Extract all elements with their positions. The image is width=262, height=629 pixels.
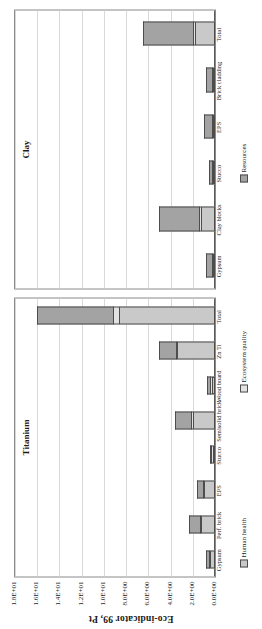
bar-column — [175, 411, 215, 429]
panel-titanium-title: Titanium — [21, 298, 31, 576]
gridline — [59, 10, 60, 288]
bar-column — [206, 67, 215, 91]
bar-column — [37, 306, 215, 324]
y-axis-tick — [15, 576, 16, 577]
y-axis-tick — [193, 576, 194, 577]
bar-segment — [193, 411, 215, 429]
y-axis-tick — [82, 576, 83, 577]
gridline — [126, 298, 127, 576]
bar-column — [159, 341, 215, 359]
bar-column — [206, 253, 215, 277]
legend-swatch-icon — [240, 174, 248, 182]
legend-label: Ecosystem quality — [240, 330, 248, 382]
gridline — [148, 10, 149, 288]
gridline — [15, 298, 16, 576]
panel-clay: Clay — [14, 9, 216, 289]
bar-column — [206, 550, 215, 568]
bar-column — [207, 376, 215, 394]
gridline — [171, 298, 172, 576]
gridline — [148, 298, 149, 576]
y-tick-label: 4.0E+00 — [166, 581, 174, 613]
legend-item-resources[interactable]: Resources — [240, 143, 248, 182]
legend-item-human-health[interactable]: Human health — [240, 518, 248, 567]
category-label: Stucco — [215, 151, 222, 195]
category-label: Total — [215, 12, 222, 56]
bar-column — [189, 515, 215, 533]
gridline — [37, 298, 38, 576]
gridline — [126, 10, 127, 288]
bar-segment — [195, 21, 215, 45]
y-tick-label: 0.0E+00 — [210, 581, 218, 613]
y-axis-tick — [59, 576, 60, 577]
gridline — [59, 298, 60, 576]
panel-titanium-plot-area — [15, 298, 215, 576]
y-tick-label: 1.0E+01 — [99, 581, 107, 613]
bar-column — [204, 114, 215, 138]
panel-titanium: Titanium — [14, 297, 216, 577]
y-axis-tick — [126, 576, 127, 577]
y-axis-title-text: Eco-indicator 99, Pt — [89, 614, 174, 624]
bar-column — [159, 206, 215, 230]
gridline — [37, 10, 38, 288]
y-axis-tick — [148, 576, 149, 577]
eco-indicator-figure: Eco-indicator 99, Pt 0.0E+002.0E+004.0E+… — [0, 0, 262, 629]
bar-segment — [189, 515, 200, 533]
y-tick-label: 1.8E+01 — [10, 581, 18, 613]
gridline — [82, 10, 83, 288]
y-tick-label: 8.0E+00 — [121, 581, 129, 613]
legend-swatch-icon — [240, 384, 248, 392]
y-axis-tick-labels: 0.0E+002.0E+004.0E+006.0E+008.0E+001.0E+… — [14, 579, 214, 613]
y-tick-label: 1.2E+01 — [77, 581, 85, 613]
category-label: Gypsum — [215, 244, 222, 288]
bar-segment — [119, 306, 215, 324]
bar-segment — [177, 341, 215, 359]
y-tick-label: 1.6E+01 — [32, 581, 40, 613]
legend-item-ecosystem-quality[interactable]: Ecosystem quality — [240, 330, 248, 392]
y-axis-tick — [104, 576, 105, 577]
gridline — [193, 10, 194, 288]
gridline — [104, 298, 105, 576]
bar-segment — [143, 21, 194, 45]
gridline — [193, 298, 194, 576]
y-axis-tick — [171, 576, 172, 577]
y-axis-tick — [37, 576, 38, 577]
category-label: Clay blocks — [215, 198, 222, 242]
y-tick-label: 6.0E+00 — [143, 581, 151, 613]
figure-rotation-wrapper: Eco-indicator 99, Pt 0.0E+002.0E+004.0E+… — [0, 0, 262, 629]
y-tick-label: 2.0E+00 — [188, 581, 196, 613]
panel-clay-title: Clay — [21, 10, 31, 288]
gridline — [104, 10, 105, 288]
legend-label: Resources — [240, 143, 248, 172]
bar-segment — [201, 515, 215, 533]
chart-legend: Human healthEcosystem qualityResources — [240, 11, 256, 577]
legend-swatch-icon — [240, 559, 248, 567]
bar-segment — [159, 341, 175, 359]
legend-label: Human health — [240, 518, 248, 557]
bar-segment — [175, 411, 192, 429]
bar-column — [197, 480, 215, 498]
gridline — [171, 10, 172, 288]
gridline — [82, 298, 83, 576]
bar-segment — [37, 306, 114, 324]
y-tick-label: 1.4E+01 — [54, 581, 62, 613]
bar-column — [143, 21, 215, 45]
category-label: Total — [215, 294, 222, 338]
panel-clay-plot-area — [15, 10, 215, 288]
category-label: EPS — [215, 105, 222, 149]
bar-segment — [159, 206, 199, 230]
bar-segment — [204, 114, 212, 138]
bar-segment — [204, 480, 215, 498]
bar-segment — [201, 206, 215, 230]
gridline — [15, 10, 16, 288]
category-label: Brick cladding — [215, 59, 222, 103]
